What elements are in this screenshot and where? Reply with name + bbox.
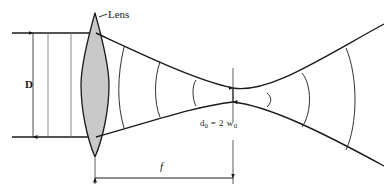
gaussian-beam-diagram: Lens D f d0 = 2 w0 xyxy=(0,0,387,196)
wavefront-converging-2 xyxy=(156,62,161,117)
diverging-edge-top xyxy=(233,24,384,89)
diagram-canvas xyxy=(0,0,387,196)
converging-wavefronts xyxy=(119,47,196,128)
waist-symbol-d: d xyxy=(200,118,205,128)
dimension-f xyxy=(95,140,233,184)
lens-leader-line xyxy=(99,14,107,17)
converging-edge-top xyxy=(96,33,233,88)
wavefront-diverging-1 xyxy=(267,93,271,107)
wavefront-converging-3 xyxy=(193,80,196,106)
waist-equation-middle: = 2 w xyxy=(208,118,234,128)
wavefront-diverging-2 xyxy=(302,73,310,127)
wavefront-converging-1 xyxy=(119,47,124,128)
lens-label: Lens xyxy=(108,9,129,20)
focal-length-label: f xyxy=(160,161,163,172)
waist-subscript-1: 0 xyxy=(205,122,209,130)
diverging-wavefronts xyxy=(267,48,355,150)
input-plane-wavefronts xyxy=(48,33,71,137)
lens-body xyxy=(81,13,109,157)
wavefront-diverging-3 xyxy=(346,48,355,150)
beam-waist-label: d0 = 2 w0 xyxy=(200,119,237,128)
lens-element xyxy=(81,13,109,157)
lens-leader xyxy=(99,14,107,17)
waist-subscript-2: 0 xyxy=(234,122,238,130)
diverging-beam-envelope xyxy=(233,24,384,166)
aperture-diameter-label: D xyxy=(25,79,33,90)
